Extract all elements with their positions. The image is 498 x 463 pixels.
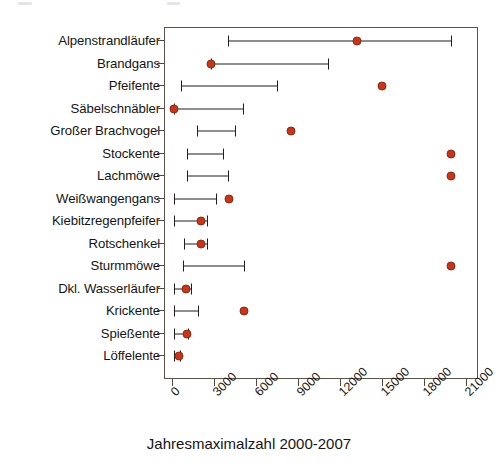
range-cap [207, 216, 208, 227]
range-bar [181, 86, 276, 87]
y-tick [157, 243, 164, 244]
x-axis-title: Jahresmaximalzahl 2000-2007 [0, 435, 498, 452]
category-label: Spießente [101, 326, 160, 339]
range-cap [451, 36, 452, 47]
y-tick [157, 265, 164, 266]
range-cap [228, 171, 229, 182]
y-tick [157, 310, 164, 311]
range-cap [198, 306, 199, 317]
y-tick [157, 220, 164, 221]
range-cap [328, 58, 329, 69]
y-tick [157, 85, 164, 86]
range-bar [174, 311, 198, 312]
data-point-dot [446, 262, 455, 271]
range-cap [207, 238, 208, 249]
data-point-dot [197, 239, 206, 248]
data-point-dot [353, 37, 362, 46]
data-point-dot [287, 127, 296, 136]
y-tick [157, 130, 164, 131]
range-cap [197, 126, 198, 137]
category-label: Brandgans [97, 56, 160, 69]
category-label: Dkl. Wasserläufer [58, 281, 160, 294]
y-tick [157, 153, 164, 154]
plot-area [164, 27, 478, 379]
range-bar [183, 266, 245, 267]
range-cap [191, 283, 192, 294]
range-cap [174, 328, 175, 339]
category-label: Stockente [102, 146, 160, 159]
category-label: Rotschenkel [89, 236, 160, 249]
range-cap [174, 306, 175, 317]
range-cap [243, 103, 244, 114]
category-label: Großer Brachvogel [50, 124, 160, 137]
category-label: Löffelente [103, 349, 160, 362]
category-label: Weißwangengans [56, 191, 160, 204]
y-tick [157, 198, 164, 199]
category-label: Sturmmöwe [91, 259, 160, 272]
range-cap [187, 148, 188, 159]
category-label: Krickente [106, 304, 160, 317]
range-bar [187, 153, 223, 154]
range-cap [277, 81, 278, 92]
range-cap [223, 148, 224, 159]
range-cap [174, 216, 175, 227]
data-point-dot [377, 82, 386, 91]
data-point-dot [174, 352, 183, 361]
data-point-dot [446, 149, 455, 158]
category-label: Lachmöwe [97, 169, 160, 182]
range-cap [187, 171, 188, 182]
scan-artifact [18, 2, 32, 5]
y-tick [157, 40, 164, 41]
data-point-dot [181, 284, 190, 293]
dot-range-chart: AlpenstrandläuferBrandgansPfeifenteSäbel… [0, 0, 498, 463]
range-bar [174, 108, 243, 109]
range-bar [197, 131, 235, 132]
y-tick [157, 108, 164, 109]
range-bar [228, 41, 451, 42]
data-point-dot [170, 104, 179, 113]
category-label: Alpenstrandläufer [58, 34, 160, 47]
range-cap [244, 261, 245, 272]
scan-artifact [167, 2, 180, 5]
data-point-dot [446, 172, 455, 181]
category-label: Säbelschnäbler [70, 101, 160, 114]
range-cap [183, 261, 184, 272]
category-label: Kiebitzregenpfeifer [52, 214, 160, 227]
data-point-dot [183, 329, 192, 338]
range-cap [235, 126, 236, 137]
range-cap [228, 36, 229, 47]
data-point-dot [206, 59, 215, 68]
y-tick [157, 288, 164, 289]
y-tick [157, 333, 164, 334]
y-tick [157, 63, 164, 64]
range-cap [174, 283, 175, 294]
range-bar [187, 176, 228, 177]
data-point-dot [225, 194, 234, 203]
range-bar [211, 63, 329, 64]
range-cap [184, 238, 185, 249]
y-tick [157, 175, 164, 176]
category-label: Pfeifente [109, 79, 160, 92]
range-cap [174, 193, 175, 204]
y-tick [157, 355, 164, 356]
range-cap [216, 193, 217, 204]
data-point-dot [240, 307, 249, 316]
data-point-dot [197, 217, 206, 226]
range-cap [181, 81, 182, 92]
x-tick-label: 0 [168, 384, 183, 399]
range-bar [174, 198, 216, 199]
